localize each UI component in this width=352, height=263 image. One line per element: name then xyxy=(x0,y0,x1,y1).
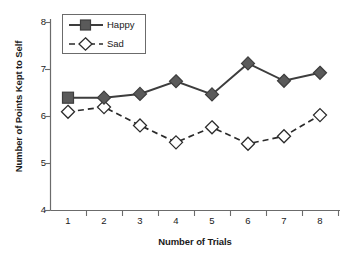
x-axis-ticks xyxy=(87,211,339,217)
chart-figure: Number of Points Kept to Self Number of … xyxy=(0,0,352,263)
legend-label-sad: Sad xyxy=(107,38,124,49)
sad-line xyxy=(68,89,212,207)
sad-point xyxy=(62,105,75,118)
sad-point xyxy=(278,130,291,143)
legend-label-happy: Happy xyxy=(107,19,134,30)
sad-point xyxy=(242,137,255,150)
sad-point xyxy=(314,109,327,122)
happy-point xyxy=(98,91,111,104)
sad-markers xyxy=(62,101,327,151)
happy-legend-swatch-icon xyxy=(67,15,105,34)
series-sad xyxy=(62,89,327,207)
sad-point xyxy=(206,121,219,134)
happy-point xyxy=(278,74,291,87)
legend-item-sad: Sad xyxy=(63,34,145,53)
happy-point xyxy=(170,75,183,88)
chart-legend: Happy Sad xyxy=(62,14,146,54)
sad-legend-swatch-icon xyxy=(67,34,105,53)
sad-point xyxy=(134,119,147,132)
happy-point xyxy=(134,87,147,100)
legend-item-happy: Happy xyxy=(63,15,145,34)
happy-point xyxy=(63,92,74,103)
sad-point xyxy=(170,136,183,149)
series-happy xyxy=(63,57,327,104)
happy-markers xyxy=(63,57,327,104)
y-axis-ticks xyxy=(45,23,51,211)
plot-area xyxy=(0,0,352,263)
happy-point xyxy=(314,66,327,79)
